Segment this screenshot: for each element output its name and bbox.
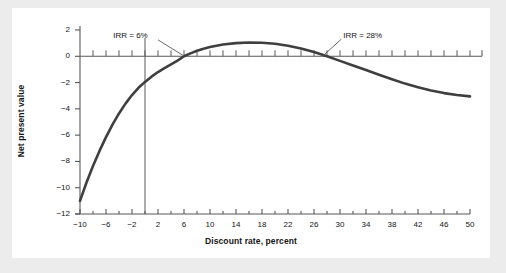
y-tick-label: −2 bbox=[44, 78, 70, 87]
y-tick-label: 2 bbox=[44, 25, 70, 34]
axes bbox=[75, 26, 482, 214]
figure-panel: 20−2−4−6−8−10−12−10−6−226101418222630343… bbox=[12, 8, 490, 258]
npv-line bbox=[80, 42, 470, 200]
y-tick-label: −4 bbox=[44, 104, 70, 113]
irr-high-annotation: IRR = 28% bbox=[343, 31, 382, 40]
y-tick-label: 0 bbox=[44, 51, 70, 60]
irr-high-leader bbox=[323, 39, 341, 55]
y-tick-label: −10 bbox=[44, 183, 70, 192]
y-tick-label: −8 bbox=[44, 156, 70, 165]
x-axis-title: Discount rate, percent bbox=[12, 236, 490, 246]
x-tick-label: 50 bbox=[455, 220, 485, 229]
tick-marks bbox=[75, 30, 470, 214]
y-tick-label: −6 bbox=[44, 130, 70, 139]
y-axis-title: Net present value bbox=[16, 66, 26, 176]
y-tick-label: −12 bbox=[44, 209, 70, 218]
irr-low-annotation: IRR = 6% bbox=[113, 31, 147, 40]
npv-curve bbox=[80, 42, 470, 200]
